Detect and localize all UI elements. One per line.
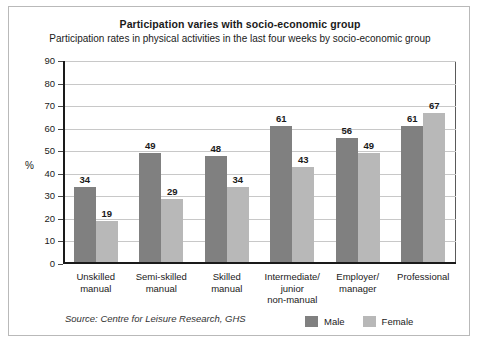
y-tick-label: 90	[29, 56, 55, 66]
y-tick-mark	[58, 264, 63, 265]
y-tick-label: 70	[29, 101, 55, 111]
category-label-line: manual	[63, 283, 129, 295]
bar-value-label: 48	[210, 143, 221, 154]
legend-label-female: Female	[382, 316, 414, 327]
bar-value-label: 49	[145, 140, 156, 151]
y-tick-label: 0	[29, 259, 55, 269]
gridline	[63, 219, 456, 220]
y-tick-label: 80	[29, 79, 55, 89]
bar-value-label: 61	[276, 113, 287, 124]
category-label-line: Professional	[391, 271, 457, 283]
gridline	[63, 106, 456, 107]
category-label: Semi-skilledmanual	[129, 271, 195, 294]
bar-value-label: 67	[429, 100, 440, 111]
bar-male: 34	[74, 187, 96, 264]
legend-swatch-female	[363, 316, 376, 327]
legend-label-male: Male	[324, 316, 345, 327]
chart-legend: MaleFemale	[305, 316, 425, 327]
chart-title: Participation varies with socio-economic…	[9, 18, 471, 30]
gridline	[63, 84, 456, 85]
category-label-line: Skilled	[194, 271, 260, 283]
plot-area: 0102030405060708090 34194929483461435649…	[63, 61, 456, 264]
gridline	[63, 241, 456, 242]
y-tick-label: 50	[29, 146, 55, 156]
gridline	[63, 174, 456, 175]
category-label-line: non-manual	[260, 294, 326, 306]
bar-male: 56	[336, 138, 358, 264]
category-label-line: manual	[194, 283, 260, 295]
category-label-line: manual	[129, 283, 195, 295]
bar-female: 43	[292, 167, 314, 264]
bar-female: 19	[96, 221, 118, 264]
y-tick-label: 10	[29, 236, 55, 246]
y-tick-label: 40	[29, 169, 55, 179]
bar-value-label: 49	[363, 140, 374, 151]
plot-border	[63, 61, 456, 264]
bar-male: 49	[139, 153, 161, 264]
category-label-line: manager	[325, 283, 391, 295]
category-label-line: Intermediate/	[260, 271, 326, 283]
gridline	[63, 61, 456, 62]
y-tick-label: 20	[29, 214, 55, 224]
bar-male: 48	[205, 156, 227, 264]
gridline	[63, 196, 456, 197]
bar-male: 61	[401, 126, 423, 264]
y-tick-label: 30	[29, 191, 55, 201]
legend-swatch-male	[305, 316, 318, 327]
bar-female: 34	[227, 187, 249, 264]
category-label-line: junior	[260, 283, 326, 295]
category-label-line: Employer/	[325, 271, 391, 283]
gridline	[63, 129, 456, 130]
gridline	[63, 151, 456, 152]
bar-female: 49	[358, 153, 380, 264]
bar-female: 67	[423, 113, 445, 264]
category-label: Skilledmanual	[194, 271, 260, 294]
bar-value-label: 56	[341, 125, 352, 136]
bar-value-label: 19	[101, 208, 112, 219]
chart-subtitle: Participation rates in physical activiti…	[9, 33, 471, 44]
bar-value-label: 34	[79, 174, 90, 185]
chart-figure: Participation varies with socio-economic…	[8, 6, 470, 336]
category-label-line: Semi-skilled	[129, 271, 195, 283]
x-axis-line	[63, 262, 456, 264]
bar-female: 29	[161, 199, 183, 264]
y-tick-label: 60	[29, 124, 55, 134]
bar-male: 61	[270, 126, 292, 264]
bar-value-label: 34	[232, 174, 243, 185]
category-label: Professional	[391, 271, 457, 283]
bar-value-label: 61	[407, 113, 418, 124]
category-label: Intermediate/juniornon-manual	[260, 271, 326, 306]
category-label: Employer/manager	[325, 271, 391, 294]
category-label-line: Unskilled	[63, 271, 129, 283]
source-note: Source: Centre for Leisure Research, GHS	[65, 313, 246, 324]
bar-value-label: 29	[167, 186, 178, 197]
y-axis-line	[63, 61, 65, 264]
bar-value-label: 43	[298, 154, 309, 165]
category-label: Unskilledmanual	[63, 271, 129, 294]
